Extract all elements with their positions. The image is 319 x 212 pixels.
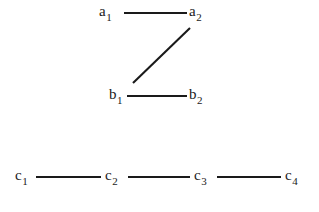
vertex-subscript-a1: 1 xyxy=(106,11,112,23)
vertex-subscript-a2: 2 xyxy=(196,11,202,23)
vertex-base-c4: c xyxy=(285,167,292,183)
vertex-subscript-c2: 2 xyxy=(112,175,118,187)
edge-layer xyxy=(0,0,319,212)
vertex-subscript-b1: 1 xyxy=(117,94,123,106)
vertex-label-a2: a2 xyxy=(189,4,201,19)
graph-diagram: a1 a2 b1 b2 c1 c2 c3 c4 xyxy=(0,0,319,212)
vertex-base-c3: c xyxy=(194,167,201,183)
vertex-label-c3: c3 xyxy=(194,168,206,183)
vertex-base-a1: a xyxy=(99,3,106,19)
vertex-base-b2: b xyxy=(189,86,197,102)
vertex-base-b1: b xyxy=(109,86,117,102)
vertex-label-b1: b1 xyxy=(109,87,122,102)
vertex-base-c1: c xyxy=(15,167,22,183)
vertex-subscript-c1: 1 xyxy=(22,175,28,187)
vertex-label-a1: a1 xyxy=(99,4,111,19)
vertex-label-c1: c1 xyxy=(15,168,27,183)
vertex-label-c4: c4 xyxy=(285,168,297,183)
vertex-base-a2: a xyxy=(189,3,196,19)
edge-b1-a2 xyxy=(133,28,190,83)
vertex-label-c2: c2 xyxy=(105,168,117,183)
vertex-subscript-c3: 3 xyxy=(201,175,207,187)
vertex-subscript-c4: 4 xyxy=(292,175,298,187)
vertex-base-c2: c xyxy=(105,167,112,183)
vertex-label-b2: b2 xyxy=(189,87,202,102)
vertex-subscript-b2: 2 xyxy=(197,94,203,106)
